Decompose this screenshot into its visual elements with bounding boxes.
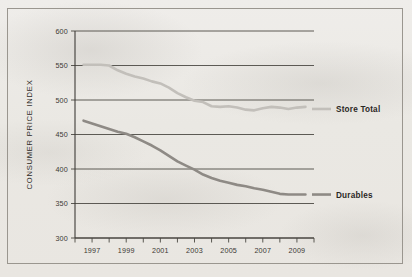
x-axis-tick-label: 2007 <box>254 246 271 255</box>
y-axis-tick-label: 450 <box>55 130 68 139</box>
y-axis-tick-label: 600 <box>55 27 68 36</box>
chart-area: 3003504004505005506001997199920012003200… <box>8 9 402 263</box>
series-line-durables <box>84 121 306 195</box>
series-label-durables: Durables <box>336 191 373 200</box>
figure-frame: 3003504004505005506001997199920012003200… <box>7 8 403 264</box>
y-axis-title: CONSUMER PRICE INDEX <box>25 80 34 190</box>
x-axis-tick-label: 2001 <box>152 246 169 255</box>
x-axis-tick-label: 2005 <box>220 246 237 255</box>
y-axis-tick-label: 300 <box>55 234 68 243</box>
series-line-store-total <box>84 65 306 111</box>
x-axis-tick-label: 1999 <box>118 246 135 255</box>
x-axis-tick-label: 2003 <box>186 246 203 255</box>
series-label-store-total: Store Total <box>336 105 380 114</box>
y-axis-tick-label: 500 <box>55 96 68 105</box>
line-chart: 3003504004505005506001997199920012003200… <box>8 9 404 265</box>
x-axis-tick-label: 2009 <box>289 246 306 255</box>
x-axis-tick-label: 1997 <box>84 246 101 255</box>
y-axis-tick-label: 400 <box>55 165 68 174</box>
y-axis-tick-label: 550 <box>55 61 68 70</box>
y-axis-tick-label: 350 <box>55 199 68 208</box>
